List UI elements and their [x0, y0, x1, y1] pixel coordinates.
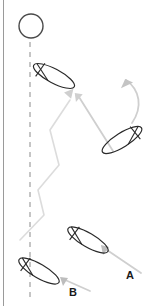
arrow-right-to-top	[73, 91, 113, 151]
arrowhead-icon	[119, 78, 133, 89]
boat-b	[15, 253, 63, 290]
diagram-canvas: A B	[0, 0, 157, 306]
arrowhead-icon	[73, 91, 85, 103]
zigzag-path-arrowhead-icon	[64, 89, 76, 100]
windward-mark-icon	[19, 14, 43, 38]
arrow-curved-wind	[119, 78, 138, 123]
label-b: B	[69, 286, 77, 298]
boat-a	[64, 222, 112, 259]
label-a: A	[126, 269, 134, 281]
zigzag-tack-path	[20, 100, 70, 240]
sailing-tacking-figure: A B	[0, 0, 157, 306]
arrow-a-course	[101, 245, 141, 273]
boat-top	[29, 59, 77, 95]
